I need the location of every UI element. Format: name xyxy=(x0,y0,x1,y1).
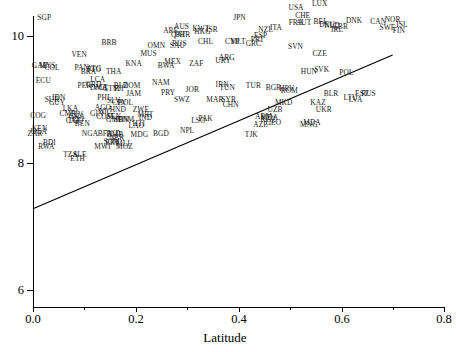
x-tick-label-2: 0.4 xyxy=(219,312,259,327)
data-point-label: SAU xyxy=(170,42,185,49)
data-point-label: LAO xyxy=(129,122,145,129)
data-point-label: KNA xyxy=(126,60,142,67)
y-tick-label-6: 6 xyxy=(0,283,24,298)
data-point-label: TUR xyxy=(246,82,261,89)
data-point-label: BGD xyxy=(153,130,169,137)
data-point-label: COL xyxy=(44,65,59,72)
data-point-label: NPL xyxy=(180,127,194,134)
data-point-label: MOZ xyxy=(116,143,133,150)
data-point-label: MWI xyxy=(94,143,110,150)
x-tick-minor-4 xyxy=(393,307,394,310)
data-point-label: COG xyxy=(30,112,46,119)
x-tick-label-3: 0.6 xyxy=(322,312,362,327)
data-point-label: MDG xyxy=(131,131,149,138)
data-point-label: SVN xyxy=(288,43,303,50)
data-point-label: ECU xyxy=(36,77,51,84)
x-tick-minor-1 xyxy=(84,307,85,310)
data-point-label: POL xyxy=(339,69,353,76)
x-tick-label-0: 0.0 xyxy=(13,312,53,327)
data-point-label: VEN xyxy=(71,51,87,58)
data-point-label: MUS xyxy=(140,50,156,57)
data-point-label: JPN xyxy=(233,14,246,21)
x-tick-minor-3 xyxy=(290,307,291,310)
data-point-label: FIN xyxy=(393,27,405,34)
data-point-label: LUX xyxy=(312,0,328,7)
data-point-label: TUN xyxy=(219,84,235,91)
data-point-label: JOR xyxy=(186,86,199,93)
data-point-label: MNG xyxy=(300,121,318,128)
y-tick-label-8: 8 xyxy=(0,156,24,171)
data-point-label: JAM xyxy=(126,90,141,97)
data-point-label: NAM xyxy=(152,79,170,86)
data-point-label: LSO xyxy=(191,117,205,124)
data-point-label: CZE xyxy=(313,51,327,58)
data-point-label: ETH xyxy=(70,155,85,162)
data-point-label: BEN xyxy=(75,120,90,127)
x-tick-minor-2 xyxy=(187,307,188,310)
y-tick-6 xyxy=(27,290,33,291)
data-point-label: BRB xyxy=(101,39,116,46)
data-point-label: CHN xyxy=(223,101,239,108)
data-point-label: THA xyxy=(106,68,122,75)
data-point-label: CYP xyxy=(225,39,240,46)
data-point-label: TJK xyxy=(245,131,258,138)
data-point-label: RWA xyxy=(38,143,54,150)
data-point-label: BHR xyxy=(175,31,191,38)
data-point-label: FRA xyxy=(289,19,304,26)
data-point-label: GEO xyxy=(266,119,282,126)
data-point-label: SWZ xyxy=(174,96,190,103)
y-tick-8 xyxy=(27,163,33,164)
data-point-label: LVA xyxy=(349,96,363,103)
data-point-label: ZAR xyxy=(28,131,43,138)
x-tick-label-1: 0.2 xyxy=(116,312,156,327)
x-axis-title: Latitude xyxy=(0,330,450,346)
data-point-label: GRC xyxy=(246,40,262,47)
data-point-label: SGP xyxy=(37,14,51,21)
data-point-label: URY xyxy=(215,57,231,64)
data-point-label: ZAF xyxy=(189,60,203,67)
x-tick-label-4: 0.8 xyxy=(424,312,456,327)
data-point-label: RUS xyxy=(361,90,376,97)
data-point-label: BLR xyxy=(324,91,339,98)
data-point-label: HRV xyxy=(279,85,294,92)
y-axis-line xyxy=(33,16,34,307)
data-point-label: SVK xyxy=(314,67,329,74)
data-point-label: BWA xyxy=(158,62,175,69)
data-point-label: ISR xyxy=(206,27,218,34)
data-point-label: IRL xyxy=(331,27,343,34)
data-point-label: ITA xyxy=(270,24,282,31)
y-tick-label-10: 10 xyxy=(0,29,24,44)
data-point-label: FJI xyxy=(114,86,124,93)
data-point-label: DNK xyxy=(346,18,362,25)
y-tick-10 xyxy=(27,36,33,37)
data-point-label: NGA xyxy=(82,131,98,138)
data-point-label: CHL xyxy=(198,38,213,45)
data-point-label: UKR xyxy=(316,107,332,114)
